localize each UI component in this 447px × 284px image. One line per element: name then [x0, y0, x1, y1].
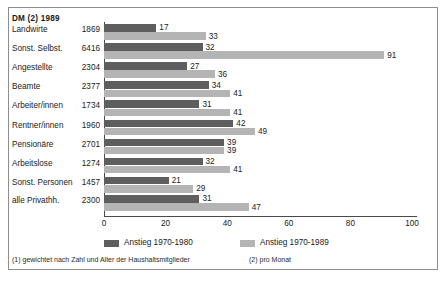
- row-label: Rentner/innen: [12, 121, 63, 131]
- bar-value-label: 91: [387, 51, 396, 60]
- bar-dark-4: [104, 100, 199, 108]
- row-value-summary: 2300: [60, 196, 100, 206]
- bar-dark-2: [104, 62, 187, 70]
- bar-light-0: [104, 32, 206, 40]
- bar-value-label: 32: [206, 157, 215, 166]
- x-tick-label-40: 40: [223, 219, 232, 228]
- bar-light-4: [104, 109, 230, 117]
- bar-value-label: 49: [258, 127, 267, 136]
- row-label-summary: alle Privathh.: [12, 196, 59, 206]
- bar-light-5: [104, 128, 255, 136]
- bar-light-1: [104, 51, 384, 59]
- row-value: 1457: [60, 178, 100, 188]
- row-value: 2701: [60, 140, 100, 150]
- bar-value-label: 41: [233, 89, 242, 98]
- legend-swatch-icon: [240, 240, 255, 247]
- x-tick-label-100: 100: [405, 219, 419, 228]
- bar-value-label: 21: [172, 176, 181, 185]
- bar-value-label: 34: [212, 81, 221, 90]
- row-label: Pensionäre: [12, 140, 53, 150]
- bar-dark-8: [104, 177, 169, 185]
- bar-value-label: 41: [233, 108, 242, 117]
- x-tick-label-80: 80: [346, 219, 355, 228]
- row-label: Sonst. Selbst.: [12, 44, 63, 54]
- bar-dark-5: [104, 120, 233, 128]
- x-tick-label-20: 20: [161, 219, 170, 228]
- row-label: Beamte: [12, 82, 40, 92]
- bar-light-8: [104, 185, 193, 193]
- row-label: Landwirte: [12, 25, 48, 35]
- bar-value-label: 31: [202, 194, 211, 203]
- bar-value-label: 39: [227, 146, 236, 155]
- row-value: 2304: [60, 63, 100, 73]
- bar-value-label: 42: [236, 119, 245, 128]
- bar-value-label: 17: [159, 23, 168, 32]
- bar-value-label: 27: [190, 62, 199, 71]
- legend-label: Anstieg 1970-1980: [124, 237, 193, 249]
- bar-value-label: 31: [202, 100, 211, 109]
- footnote-1: (1) gewichtet nach Zahl und Alter der Ha…: [12, 256, 190, 263]
- bar-value-label: 29: [196, 184, 205, 193]
- row-label: Angestellte: [12, 63, 53, 73]
- row-label: Arbeitslose: [12, 159, 53, 169]
- bar-light-2: [104, 70, 215, 78]
- bar-value-label: 32: [206, 43, 215, 52]
- bar-dark-7: [104, 158, 203, 166]
- bar-dark-1: [104, 43, 203, 51]
- bar-dark-0: [104, 24, 156, 32]
- bar-dark-summary: [104, 195, 199, 203]
- legend-swatch-icon: [104, 240, 119, 247]
- row-label: Arbeiter/innen: [12, 101, 63, 111]
- bar-light-summary: [104, 203, 249, 211]
- x-tick-label-60: 60: [284, 219, 293, 228]
- bar-dark-3: [104, 81, 209, 89]
- bar-dark-6: [104, 139, 224, 147]
- row-value: 2377: [60, 82, 100, 92]
- bar-value-label: 36: [218, 70, 227, 79]
- bar-value-label: 33: [209, 32, 218, 41]
- row-value: 1960: [60, 121, 100, 131]
- row-value: 1869: [60, 25, 100, 35]
- value-column-header: DM (2) 1989: [12, 14, 60, 23]
- x-axis-line: [104, 216, 417, 217]
- x-tick-label-0: 0: [102, 219, 107, 228]
- legend-label: Anstieg 1970-1989: [260, 237, 329, 249]
- footnote-2: (2) pro Monat: [249, 256, 291, 263]
- bar-light-6: [104, 147, 224, 155]
- bar-value-label: 47: [252, 203, 261, 212]
- bar-light-3: [104, 90, 230, 98]
- row-value: 6416: [60, 44, 100, 54]
- row-value: 1274: [60, 159, 100, 169]
- bar-light-7: [104, 166, 230, 174]
- row-value: 1734: [60, 101, 100, 111]
- bar-value-label: 41: [233, 165, 242, 174]
- chart-figure: DM (2) 1989 Anstieg 1970-1980 Anstieg 19…: [0, 0, 447, 284]
